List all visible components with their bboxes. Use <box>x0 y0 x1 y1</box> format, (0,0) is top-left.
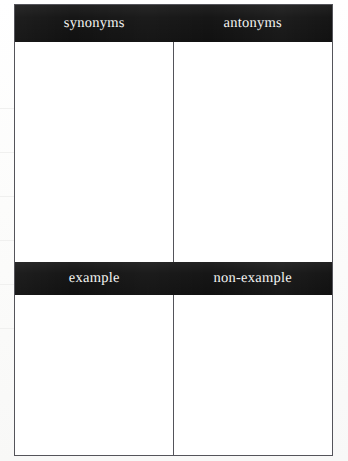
answer-cell-example[interactable] <box>15 295 174 455</box>
scan-artifact <box>0 196 14 197</box>
column-header-antonyms-label: antonyms <box>224 16 282 31</box>
header-band-row-2: example non-example <box>15 262 332 295</box>
content-band-row-2 <box>15 295 332 455</box>
answer-cell-antonyms-text[interactable] <box>174 42 333 262</box>
column-header-example: example <box>15 262 174 295</box>
scan-artifact <box>0 284 14 285</box>
column-header-synonyms-label: synonyms <box>64 16 125 31</box>
answer-cell-antonyms[interactable] <box>174 42 333 262</box>
column-header-antonyms: antonyms <box>174 5 333 42</box>
scan-artifact <box>0 152 14 153</box>
answer-cell-non-example-text[interactable] <box>174 295 333 455</box>
scan-artifact <box>0 240 14 241</box>
column-header-non-example: non-example <box>174 262 333 295</box>
scan-artifact <box>0 328 14 329</box>
header-band-row-1: synonyms antonyms <box>15 5 332 42</box>
column-header-non-example-label: non-example <box>214 271 292 286</box>
column-header-example-label: example <box>69 271 120 286</box>
answer-cell-non-example[interactable] <box>174 295 333 455</box>
answer-cell-example-text[interactable] <box>15 295 173 455</box>
scan-artifact <box>0 108 14 109</box>
answer-cell-synonyms-text[interactable] <box>15 42 173 262</box>
column-header-synonyms: synonyms <box>15 5 174 42</box>
graphic-organizer-table: synonyms antonyms example non-example <box>14 4 333 456</box>
answer-cell-synonyms[interactable] <box>15 42 174 262</box>
content-band-row-1 <box>15 42 332 262</box>
